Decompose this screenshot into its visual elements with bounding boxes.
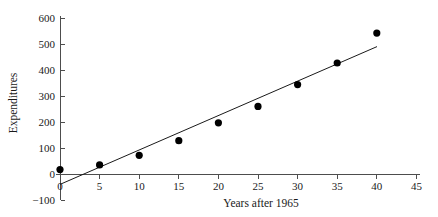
- y-tick-label-300: 300: [39, 90, 56, 102]
- chart-figure: 600 500 400 300 200 100 0 −100 0 5 10 15…: [0, 0, 438, 217]
- x-tick-label-40: 40: [371, 180, 383, 192]
- y-tick-label-200: 200: [39, 116, 56, 128]
- x-tick-label-30: 30: [292, 180, 304, 192]
- x-tick-label-15: 15: [173, 180, 185, 192]
- y-tick-label-400: 400: [39, 64, 56, 76]
- data-point: [254, 103, 261, 110]
- regression-line: [60, 47, 377, 185]
- data-point: [175, 137, 182, 144]
- x-tick-label-10: 10: [134, 180, 146, 192]
- x-tick-label-20: 20: [213, 180, 225, 192]
- data-point: [56, 166, 63, 173]
- y-tick-label-500: 500: [39, 38, 56, 50]
- data-point: [96, 161, 103, 168]
- x-tick-label-35: 35: [332, 180, 344, 192]
- x-tick-marks: [60, 175, 416, 180]
- x-axis-title: Years after 1965: [223, 197, 299, 209]
- data-point: [294, 81, 301, 88]
- x-tick-label-0: 0: [57, 180, 63, 192]
- data-point-group: [56, 29, 380, 173]
- x-tick-label-45: 45: [411, 180, 423, 192]
- y-tick-label-100: 100: [39, 142, 56, 154]
- data-point: [136, 152, 143, 159]
- x-tick-label-25: 25: [253, 180, 265, 192]
- data-point: [373, 29, 380, 36]
- y-tick-label-600: 600: [39, 12, 56, 24]
- y-tick-label-0: 0: [50, 168, 56, 180]
- data-point: [334, 59, 341, 66]
- y-tick-label-neg100: −100: [32, 194, 55, 206]
- x-tick-label-5: 5: [97, 180, 103, 192]
- y-axis-title: Expenditures: [7, 72, 20, 133]
- data-point: [215, 119, 222, 126]
- scatter-plot-canvas: 600 500 400 300 200 100 0 −100 0 5 10 15…: [0, 0, 438, 217]
